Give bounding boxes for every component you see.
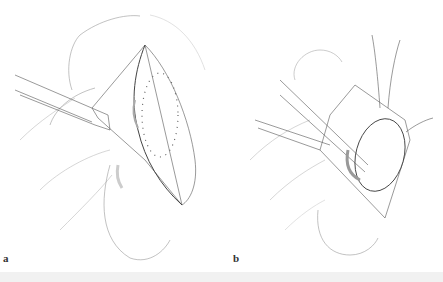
caption-band — [0, 272, 443, 282]
panel-label-b: b — [233, 252, 239, 264]
panel-a: a — [0, 0, 220, 270]
panel-b: b — [220, 0, 443, 270]
illustration-b — [220, 0, 443, 270]
illustration-a — [0, 0, 220, 270]
panel-label-a: a — [3, 252, 9, 264]
